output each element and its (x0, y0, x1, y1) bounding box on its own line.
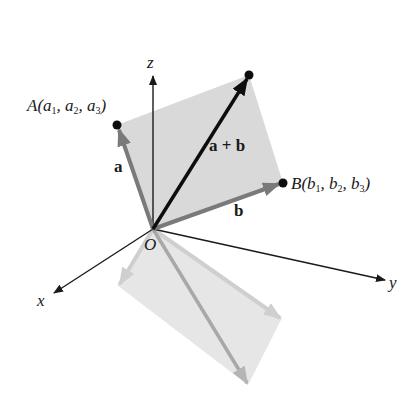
vector-b-label: b (234, 202, 243, 219)
z-axis-label: z (147, 54, 154, 71)
vector-sum-label: a + b (209, 137, 245, 154)
point-A-dot (113, 121, 122, 130)
point-B-dot (279, 179, 288, 188)
point-B-label: B(b1, b2, b3) (291, 175, 370, 194)
point-A-label: A(a1, a2, a3) (27, 97, 106, 116)
vector-addition-diagram: z x y O A(a1, a2, a3) B(b1, b2, b3) a b … (0, 0, 419, 397)
origin-label: O (144, 236, 156, 253)
x-axis-label: x (37, 292, 45, 309)
vector-a-label: a (114, 158, 123, 175)
diagram-graphics (0, 0, 419, 397)
point-sum-dot (245, 71, 254, 80)
y-axis-label: y (389, 274, 397, 291)
